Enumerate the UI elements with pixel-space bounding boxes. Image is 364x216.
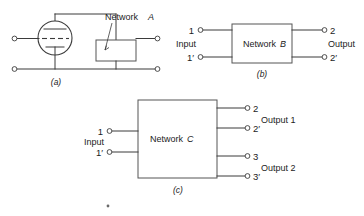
terminal-b-input-bottom[interactable] xyxy=(198,55,203,60)
terminal-label-c-1-prime: 1′ xyxy=(96,147,103,158)
network-a-label-prefix: Network xyxy=(105,12,139,22)
panel-c: 1 1′ 2 2′ 3 3′ Input Output 1 Output 2 N… xyxy=(84,100,296,207)
terminal-label-c-2: 2 xyxy=(253,103,258,114)
network-b-label-letter: B xyxy=(280,39,286,49)
network-a-label-letter: A xyxy=(147,12,154,22)
caption-c: (c) xyxy=(173,185,183,195)
network-c-input-label: Input xyxy=(84,137,105,147)
terminal-c-output2-top[interactable] xyxy=(245,154,250,159)
terminal-c-input-bottom[interactable] xyxy=(107,150,112,155)
terminal-c-output2-bottom[interactable] xyxy=(245,174,250,179)
terminal-a-right-bottom[interactable] xyxy=(155,67,160,72)
terminal-c-input-top[interactable] xyxy=(107,129,112,134)
terminal-a-right-top[interactable] xyxy=(155,36,160,41)
caption-b: (b) xyxy=(257,69,268,79)
panel-a: Network A (a) xyxy=(12,12,160,87)
terminal-b-output-bottom[interactable] xyxy=(322,55,327,60)
network-c-output2-label: Output 2 xyxy=(261,163,296,173)
figure-page: Network A (a) 1 1′ 2 2′ xyxy=(0,0,364,216)
terminal-label-b-2: 2 xyxy=(330,25,335,36)
terminal-b-output-top[interactable] xyxy=(322,28,327,33)
terminal-label-c-2-prime: 2′ xyxy=(253,123,260,134)
network-c-label-prefix: Network xyxy=(150,134,184,144)
terminal-label-b-1-prime: 1′ xyxy=(187,52,194,63)
network-c-output1-label: Output 1 xyxy=(261,115,296,125)
terminal-label-c-3: 3 xyxy=(253,151,258,162)
network-b-output-label: Output xyxy=(328,39,356,49)
caption-a: (a) xyxy=(51,77,62,87)
network-b-label-prefix: Network xyxy=(243,39,277,49)
network-a-box xyxy=(96,40,136,61)
terminal-a-left-bottom[interactable] xyxy=(12,67,17,72)
terminal-label-b-1: 1 xyxy=(189,25,194,36)
terminal-label-c-3-prime: 3′ xyxy=(253,171,260,182)
scan-artifact-speck xyxy=(107,205,110,208)
terminal-b-input-top[interactable] xyxy=(198,28,203,33)
terminal-c-output1-bottom[interactable] xyxy=(245,126,250,131)
panel-b: 1 1′ 2 2′ Input Output Network B (b) xyxy=(176,24,356,79)
terminal-c-output1-top[interactable] xyxy=(245,106,250,111)
terminal-label-b-2-prime: 2′ xyxy=(330,52,337,63)
network-c-label-letter: C xyxy=(187,134,194,144)
terminal-a-left-top[interactable] xyxy=(12,36,17,41)
terminal-label-c-1: 1 xyxy=(98,126,103,137)
network-diagram-figure: Network A (a) 1 1′ 2 2′ xyxy=(0,0,364,216)
network-b-input-label: Input xyxy=(176,39,197,49)
